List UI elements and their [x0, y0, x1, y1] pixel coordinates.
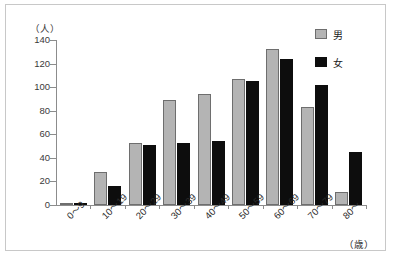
- bar-group: [198, 40, 225, 205]
- bar-male: [163, 100, 176, 205]
- bar-group: [266, 40, 293, 205]
- legend-swatch-male-icon: [315, 29, 327, 39]
- legend-label-male: 男: [333, 27, 343, 42]
- y-axis-tick-label: 120: [6, 59, 50, 68]
- y-axis-tick-label: 40: [6, 153, 50, 162]
- bar-male: [129, 143, 142, 205]
- y-axis-unit-label: （人）: [30, 21, 60, 35]
- y-axis-tick-label: 80: [6, 106, 50, 115]
- y-axis-tick-label: 0: [6, 200, 50, 209]
- bar-female: [349, 152, 362, 205]
- x-axis-tick: [332, 205, 333, 209]
- bar-group: [163, 40, 190, 205]
- x-axis-unit-label: （歳）: [344, 237, 374, 251]
- bar-male: [266, 49, 279, 205]
- y-axis-tick-label: 140: [6, 35, 50, 44]
- chart-legend: 男 女: [315, 27, 367, 83]
- bar-female: [315, 85, 328, 205]
- x-axis-tick: [366, 205, 367, 209]
- y-axis-tick-label: 60: [6, 129, 50, 138]
- x-axis-tick: [125, 205, 126, 209]
- bar-group: [129, 40, 156, 205]
- bar-male: [94, 172, 107, 205]
- legend-label-female: 女: [333, 55, 343, 70]
- y-axis-tick-label: 100: [6, 82, 50, 91]
- y-axis-tick-label: 20: [6, 176, 50, 185]
- x-axis-tick: [159, 205, 160, 209]
- bar-female: [246, 81, 259, 205]
- legend-item-female: 女: [315, 55, 367, 69]
- x-axis-tick: [194, 205, 195, 209]
- bar-group: [60, 40, 87, 205]
- chart-frame: （人） 140120100806040200 0〜910〜1920〜2930〜3…: [5, 4, 386, 251]
- x-axis-tick: [263, 205, 264, 209]
- bar-male: [232, 79, 245, 205]
- x-axis-tick: [297, 205, 298, 209]
- x-axis-tick: [228, 205, 229, 209]
- legend-item-male: 男: [315, 27, 367, 41]
- bar-male: [198, 94, 211, 205]
- x-axis-tick: [90, 205, 91, 209]
- bar-male: [301, 107, 314, 205]
- bar-group: [232, 40, 259, 205]
- legend-swatch-female-icon: [315, 57, 327, 67]
- bar-group: [94, 40, 121, 205]
- bar-female: [280, 59, 293, 205]
